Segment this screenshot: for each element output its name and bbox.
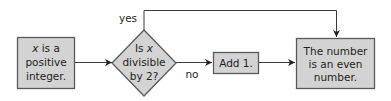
start-node: x is a positive integer. (18, 38, 75, 89)
result-node-line-1: The number (303, 45, 369, 57)
add-one-node-text: Add 1. (219, 57, 253, 69)
no-label: no (185, 68, 198, 80)
flowchart-canvas: x is a positive integer. Is x divisible … (0, 0, 391, 101)
result-node: The number is an even number. (297, 39, 375, 89)
yes-label: yes (119, 12, 137, 24)
result-node-line-2: is an even (309, 58, 363, 70)
start-node-line-2: positive (25, 56, 66, 68)
result-node-line-3: number. (314, 71, 357, 83)
decision-node-line-3: by 2? (130, 70, 158, 82)
start-node-line-3: integer. (26, 70, 66, 82)
decision-node-line-2: divisible (122, 56, 165, 68)
decision-node: Is x divisible by 2? (112, 30, 176, 96)
decision-node-line-1: Is x (135, 42, 154, 54)
add-one-node: Add 1. (214, 53, 259, 74)
start-node-line-1: x is a (31, 42, 60, 54)
edge-yes-to-result (144, 11, 337, 38)
